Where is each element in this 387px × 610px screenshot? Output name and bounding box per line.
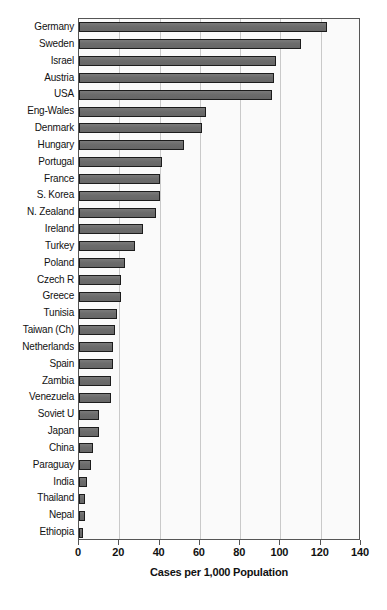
x-tick-140 xyxy=(360,540,361,545)
bar-tunisia xyxy=(79,309,117,319)
bar-japan xyxy=(79,427,99,437)
bar-china xyxy=(79,443,93,453)
category-label-zambia: Zambia xyxy=(4,372,74,389)
bar-row xyxy=(79,86,359,103)
x-tick-40 xyxy=(159,540,160,545)
bar-czech-r xyxy=(79,275,121,285)
x-axis-tick-labels: 020406080100120140 xyxy=(78,546,360,562)
bar-row xyxy=(79,524,359,541)
bar-row xyxy=(79,187,359,204)
x-tick-0 xyxy=(78,540,79,545)
bar-portugal xyxy=(79,157,162,167)
category-label-tunisia: Tunisia xyxy=(4,304,74,321)
bar-israel xyxy=(79,56,276,66)
x-tick-label-120: 120 xyxy=(311,546,329,558)
bar-row xyxy=(79,305,359,322)
x-tick-label-40: 40 xyxy=(153,546,165,558)
bar-paraguay xyxy=(79,460,91,470)
x-tick-60 xyxy=(199,540,200,545)
bar-row xyxy=(79,490,359,507)
x-tick-label-140: 140 xyxy=(351,546,369,558)
category-label-india: India xyxy=(4,473,74,490)
bar-row xyxy=(79,406,359,423)
category-label-usa: USA xyxy=(4,85,74,102)
x-tick-120 xyxy=(320,540,321,545)
category-label-germany: Germany xyxy=(4,18,74,35)
x-tick-100 xyxy=(279,540,280,545)
bar-usa xyxy=(79,90,272,100)
bar-thailand xyxy=(79,494,85,504)
category-label-france: France xyxy=(4,170,74,187)
bar-row xyxy=(79,389,359,406)
category-label-china: China xyxy=(4,439,74,456)
x-tick-label-0: 0 xyxy=(75,546,81,558)
x-tick-20 xyxy=(118,540,119,545)
bar-hungary xyxy=(79,140,184,150)
bar-row xyxy=(79,322,359,339)
bar-row xyxy=(79,19,359,36)
x-tick-label-80: 80 xyxy=(233,546,245,558)
category-label-sweden: Sweden xyxy=(4,35,74,52)
bar-india xyxy=(79,477,87,487)
bar-zambia xyxy=(79,376,111,386)
category-label-soviet-u: Soviet U xyxy=(4,405,74,422)
bar-row xyxy=(79,474,359,491)
bar-row xyxy=(79,154,359,171)
category-label-eng-wales: Eng-Wales xyxy=(4,102,74,119)
bar-row xyxy=(79,137,359,154)
category-label-netherlands: Netherlands xyxy=(4,338,74,355)
bar-france xyxy=(79,174,160,184)
x-tick-80 xyxy=(239,540,240,545)
category-label-spain: Spain xyxy=(4,355,74,372)
bar-row xyxy=(79,53,359,70)
bar-row xyxy=(79,356,359,373)
bar-rows xyxy=(79,19,359,539)
bar-row xyxy=(79,457,359,474)
bar-soviet-u xyxy=(79,410,99,420)
bar-spain xyxy=(79,359,113,369)
bar-netherlands xyxy=(79,342,113,352)
bar-row xyxy=(79,339,359,356)
category-label-ethiopia: Ethiopia xyxy=(4,523,74,540)
bar-row xyxy=(79,70,359,87)
x-tick-label-20: 20 xyxy=(112,546,124,558)
bar-austria xyxy=(79,73,274,83)
bar-chart-figure: GermanySwedenIsraelAustriaUSAEng-WalesDe… xyxy=(0,0,387,610)
bar-row xyxy=(79,103,359,120)
category-label-turkey: Turkey xyxy=(4,237,74,254)
bar-venezuela xyxy=(79,393,111,403)
category-label-greece: Greece xyxy=(4,287,74,304)
bar-ireland xyxy=(79,224,143,234)
bar-eng-wales xyxy=(79,107,206,117)
bar-ethiopia xyxy=(79,528,83,538)
bar-row xyxy=(79,238,359,255)
bar-greece xyxy=(79,292,121,302)
category-label-czech-r: Czech R xyxy=(4,271,74,288)
bar-row xyxy=(79,171,359,188)
bar-denmark xyxy=(79,123,202,133)
bar-poland xyxy=(79,258,125,268)
category-label-taiwan-ch: Taiwan (Ch) xyxy=(4,321,74,338)
category-label-thailand: Thailand xyxy=(4,489,74,506)
bar-taiwan-ch xyxy=(79,325,115,335)
bar-s-korea xyxy=(79,191,160,201)
bar-n-zealand xyxy=(79,208,156,218)
category-label-poland: Poland xyxy=(4,254,74,271)
plot-area xyxy=(78,18,360,540)
category-label-portugal: Portugal xyxy=(4,153,74,170)
bar-row xyxy=(79,373,359,390)
bar-germany xyxy=(79,22,327,32)
category-label-paraguay: Paraguay xyxy=(4,456,74,473)
bar-turkey xyxy=(79,241,135,251)
category-label-hungary: Hungary xyxy=(4,136,74,153)
bar-row xyxy=(79,288,359,305)
category-label-austria: Austria xyxy=(4,69,74,86)
bar-row xyxy=(79,440,359,457)
category-label-venezuela: Venezuela xyxy=(4,388,74,405)
bar-nepal xyxy=(79,511,85,521)
bar-row xyxy=(79,272,359,289)
bar-row xyxy=(79,120,359,137)
category-label-israel: Israel xyxy=(4,52,74,69)
category-label-nepal: Nepal xyxy=(4,506,74,523)
bar-row xyxy=(79,255,359,272)
